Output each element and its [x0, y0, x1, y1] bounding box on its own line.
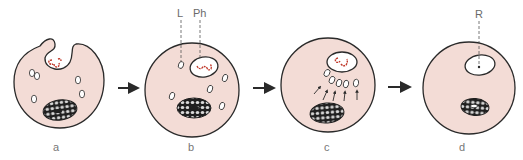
panel-label-b: b	[188, 141, 194, 153]
panel-b-cell: L Ph	[145, 7, 239, 137]
panel-label-d: d	[459, 141, 465, 153]
cell-membrane	[423, 42, 515, 134]
phagocytosis-diagram: L Ph R a b c d	[0, 0, 523, 160]
lysosome	[34, 72, 39, 79]
lysosome	[31, 95, 36, 103]
nucleolus	[471, 104, 478, 108]
bacterium	[49, 59, 61, 67]
label-residual-body: R	[475, 8, 483, 20]
panel-d-cell: R	[423, 8, 515, 134]
panel-label-a: a	[53, 141, 60, 153]
lysosome	[75, 76, 80, 84]
lysosome	[29, 69, 34, 76]
nucleolus	[54, 109, 62, 113]
label-lysosome: L	[177, 7, 183, 19]
panel-c-cell	[281, 38, 375, 132]
label-phagosome: Ph	[193, 7, 206, 19]
callout-dot	[478, 66, 480, 68]
cell-membrane	[145, 43, 239, 137]
panel-a-cell	[14, 39, 104, 128]
lysosome	[79, 90, 84, 98]
nucleolus	[189, 106, 199, 110]
panel-label-c: c	[324, 141, 330, 153]
phagosome	[327, 52, 357, 72]
